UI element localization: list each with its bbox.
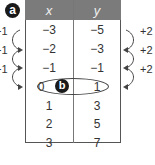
- step-arrows-icon: [0, 0, 155, 165]
